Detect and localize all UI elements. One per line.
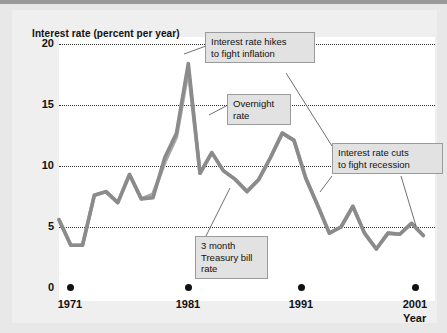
callout-treasury-bill-rate: 3 month Treasury bill rate bbox=[195, 236, 268, 279]
leader-cuts bbox=[320, 176, 332, 192]
leader-hikes bbox=[184, 46, 206, 54]
callout-interest-rate-cuts: Interest rate cuts to fight recession bbox=[332, 143, 443, 174]
callout-interest-rate-hikes: Interest rate hikes to fight inflation bbox=[205, 32, 315, 63]
top-strip bbox=[0, 0, 447, 4]
leader-tbill bbox=[205, 188, 230, 238]
leader-overnight bbox=[209, 105, 228, 115]
leader-cuts-2 bbox=[401, 176, 416, 226]
chart-figure-page: Interest rate (percent per year) 20 15 1… bbox=[0, 0, 447, 333]
callout-overnight-rate: Overnight rate bbox=[227, 94, 291, 125]
figure-panel: Interest rate (percent per year) 20 15 1… bbox=[12, 10, 437, 323]
leader-hikes-2 bbox=[286, 73, 332, 146]
